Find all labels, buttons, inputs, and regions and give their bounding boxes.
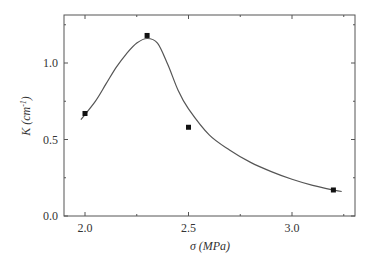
- x-tick-label: 2.5: [181, 221, 196, 235]
- x-axis-label: σ (MPa): [190, 239, 230, 253]
- plot-frame: [64, 15, 355, 216]
- data-point-marker: [145, 33, 150, 38]
- x-tick-label: 2.0: [78, 221, 93, 235]
- axis-ticks: [64, 15, 355, 216]
- tick-labels: 2.02.53.00.00.51.0: [43, 56, 300, 235]
- data-point-marker: [186, 125, 191, 130]
- x-tick-label: 3.0: [285, 221, 300, 235]
- y-tick-label: 1.0: [43, 56, 58, 70]
- data-point-marker: [83, 111, 88, 116]
- y-axis-label: K (cm-1): [19, 96, 33, 137]
- data-points: [83, 33, 336, 193]
- chart: 2.02.53.00.00.51.0 σ (MPa) K (cm-1): [0, 0, 372, 268]
- y-tick-label: 0.5: [43, 133, 58, 147]
- fit-curve: [81, 39, 342, 192]
- y-tick-label: 0.0: [43, 209, 58, 223]
- data-point-marker: [331, 187, 336, 192]
